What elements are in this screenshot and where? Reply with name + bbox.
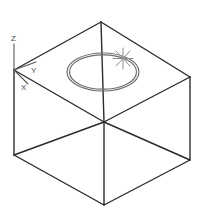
ucs-axis-y-label: Y [31, 66, 37, 75]
edge-top-center-to-top-right [101, 22, 190, 77]
cad-model-viewport[interactable]: Z Y X [0, 0, 203, 220]
ucs-axis-x-label: X [21, 83, 27, 92]
edge-top-left-to-top-center [14, 22, 101, 70]
edge-bottom-front-to-bottom-right [104, 160, 190, 205]
ucs-axis-z-label: Z [11, 34, 16, 43]
edge-top-left-to-top-front [14, 70, 104, 122]
edge-bottom-left-to-bottom-front [14, 155, 104, 205]
box-solid-wireframe[interactable] [14, 22, 190, 205]
edge-top-front-to-top-right [104, 77, 190, 122]
ucs-origin-marker [13, 69, 15, 71]
snap-crosshair-star-icon[interactable] [113, 48, 133, 69]
edge-bottom-left-to-top-front [14, 122, 104, 155]
edge-top-front-to-bottom-right [104, 122, 190, 160]
edge-top-center-to-top-front [101, 22, 104, 122]
wireframe-drawing-canvas[interactable]: Z Y X [0, 0, 203, 220]
